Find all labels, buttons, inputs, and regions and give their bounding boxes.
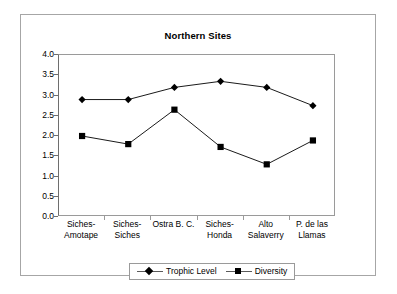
data-point	[217, 78, 224, 85]
legend-marker	[145, 267, 153, 275]
series-trophic-level	[78, 78, 316, 110]
y-tick-label: 1.0	[42, 172, 54, 180]
y-tick-mark	[54, 135, 58, 136]
x-tick-label-line: Alto	[243, 219, 289, 230]
x-tick-mark	[150, 216, 151, 220]
series-line	[82, 110, 313, 165]
y-tick-label: 0.5	[42, 192, 54, 200]
y-tick-mark	[54, 196, 58, 197]
y-tick-label: 3.0	[42, 91, 54, 99]
x-tick-label-line: Amotape	[58, 230, 104, 241]
y-tick-mark	[54, 176, 58, 177]
legend-entry: Trophic Level	[137, 266, 217, 276]
y-tick-label: 0.0	[42, 212, 54, 220]
square-marker-icon	[226, 267, 252, 276]
chart-legend: Trophic LevelDiversity	[129, 263, 295, 280]
y-tick-label: 2.0	[42, 131, 54, 139]
x-tick-label-line: Siches-	[58, 219, 104, 230]
legend-label: Trophic Level	[166, 266, 217, 276]
legend-entry: Diversity	[226, 266, 288, 276]
data-point	[217, 144, 223, 150]
data-point	[78, 96, 85, 103]
data-point	[125, 96, 132, 103]
x-tick-label: P. de lasLlamas	[289, 219, 335, 240]
x-axis: Siches-AmotapeSiches-SichesOstra B. C.Si…	[58, 219, 335, 255]
x-tick-label-line: Honda	[197, 230, 243, 241]
series-layer	[59, 55, 336, 217]
diamond-marker-icon	[137, 267, 163, 276]
x-tick-mark	[197, 216, 198, 220]
x-tick-label-line: Siches-	[104, 219, 150, 230]
data-point	[79, 133, 85, 139]
y-tick-mark	[54, 74, 58, 75]
y-tick-mark	[54, 155, 58, 156]
x-tick-label-line: Salaverry	[243, 230, 289, 241]
data-point	[125, 141, 131, 147]
series-diversity	[79, 107, 316, 168]
series-line	[82, 81, 313, 105]
y-tick-label: 1.5	[42, 151, 54, 159]
plot-inner	[59, 55, 334, 215]
x-tick-label-line: Llamas	[289, 230, 335, 241]
chart-container: Northern Sites 4.03.53.02.52.01.51.00.50…	[20, 14, 376, 276]
chart-title: Northern Sites	[21, 30, 375, 41]
legend-marker	[235, 268, 241, 274]
x-tick-label: AltoSalaverry	[243, 219, 289, 240]
y-axis: 4.03.53.02.52.01.51.00.50.0	[29, 54, 54, 216]
data-point	[263, 84, 270, 91]
y-tick-mark	[54, 54, 58, 55]
x-tick-mark	[243, 216, 244, 220]
x-tick-label: Siches-Honda	[197, 219, 243, 240]
data-point	[264, 161, 270, 167]
x-tick-label-line: P. de las	[289, 219, 335, 230]
data-point	[171, 84, 178, 91]
y-tick-mark	[54, 95, 58, 96]
data-point	[309, 102, 316, 109]
x-tick-label-line: Ostra B. C.	[150, 219, 196, 230]
x-tick-label: Siches-Amotape	[58, 219, 104, 240]
y-tick-label: 2.5	[42, 111, 54, 119]
plot-area	[58, 54, 335, 216]
y-tick-label: 3.5	[42, 70, 54, 78]
legend-label: Diversity	[255, 266, 288, 276]
x-tick-label-line: Siches	[104, 230, 150, 241]
x-tick-mark	[289, 216, 290, 220]
x-tick-label: Siches-Siches	[104, 219, 150, 240]
data-point	[171, 107, 177, 113]
y-tick-mark	[54, 115, 58, 116]
x-tick-label: Ostra B. C.	[150, 219, 196, 230]
data-point	[310, 137, 316, 143]
y-tick-label: 4.0	[42, 50, 54, 58]
x-tick-mark	[104, 216, 105, 220]
x-tick-label-line: Siches-	[197, 219, 243, 230]
y-tick-mark	[54, 216, 58, 217]
